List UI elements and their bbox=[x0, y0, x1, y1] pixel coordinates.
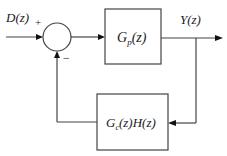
block-diagram: D(z) + Gp(z) Y(z) Gc(z)H(z) − bbox=[0, 0, 227, 156]
summing-junction bbox=[43, 23, 71, 51]
forward-block-label: Gp(z) bbox=[117, 30, 147, 47]
feedback-block-label: Gc(z)H(z) bbox=[106, 115, 156, 132]
input-label: D(z) bbox=[5, 10, 29, 25]
output-arrow-icon bbox=[215, 35, 223, 41]
output-label: Y(z) bbox=[180, 12, 201, 27]
forward-arrow-icon bbox=[98, 34, 105, 40]
feedback-junction-arrow-icon bbox=[54, 51, 60, 58]
plus-sign: + bbox=[35, 16, 41, 28]
feedback-arrow-icon bbox=[168, 120, 176, 126]
input-arrow-icon bbox=[36, 34, 43, 40]
minus-sign: − bbox=[63, 51, 70, 65]
